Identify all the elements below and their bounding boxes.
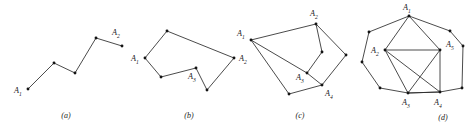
panel-caption-b: (b)	[184, 111, 194, 120]
vertex-label: A2	[370, 46, 379, 57]
edge	[75, 38, 96, 73]
edge	[462, 46, 463, 88]
vertex-point	[53, 62, 56, 65]
vertex-point	[27, 88, 30, 91]
panel-caption-a: (a)	[61, 111, 71, 120]
figure-panel-group: A1A2(a)A1A2A3(b)A1A2A3A4(c)A1A2A3A4A5(d)	[0, 0, 471, 130]
edge	[440, 88, 462, 92]
edge	[322, 55, 346, 85]
vertex-point	[95, 37, 98, 40]
vertex-point	[321, 51, 324, 54]
vertex-point	[160, 76, 163, 79]
panel-caption-d: (d)	[438, 113, 448, 122]
edge	[251, 24, 316, 40]
vertex-point	[368, 31, 371, 34]
edge	[54, 63, 75, 73]
vertex-label: A2	[309, 9, 318, 20]
vertex-point	[74, 72, 77, 75]
vertex-label: A1	[236, 29, 245, 40]
vertex-point	[345, 54, 348, 57]
vertex-label: A5	[445, 40, 454, 51]
edge	[307, 52, 322, 73]
vertex-point	[144, 57, 147, 60]
vertex-point	[384, 49, 387, 52]
vertex-label: A3	[187, 72, 196, 83]
vertex-point	[379, 87, 382, 90]
figure-canvas: A1A2(a)A1A2A3(b)A1A2A3A4(c)A1A2A3A4A5(d)	[0, 0, 471, 130]
vertex-point	[206, 89, 209, 92]
vertex-point	[408, 15, 411, 18]
edge	[385, 50, 440, 92]
edge	[251, 40, 307, 73]
edge	[409, 16, 440, 50]
vertex-point	[462, 45, 465, 48]
vertex-point	[195, 67, 198, 70]
panel-c: A1A2A3A4(c)	[236, 9, 347, 120]
edge	[409, 16, 450, 31]
edge	[207, 58, 234, 90]
panel-c-edges	[251, 24, 346, 94]
edge	[289, 85, 322, 94]
edge	[28, 63, 54, 89]
edge	[362, 62, 380, 88]
vertex-point	[315, 23, 318, 26]
edge	[362, 32, 369, 62]
vertex-point	[461, 87, 464, 90]
edge	[316, 24, 346, 55]
panel-a-labels: A1A2	[13, 28, 120, 97]
panel-b-edges	[145, 31, 234, 90]
edge	[307, 73, 322, 85]
vertex-point	[166, 30, 169, 33]
panels-root: A1A2(a)A1A2A3(b)A1A2A3A4(c)A1A2A3A4A5(d)	[13, 3, 464, 122]
vertex-point	[439, 49, 442, 52]
edge	[167, 31, 234, 58]
edge	[385, 50, 408, 93]
vertex-label: A1	[13, 86, 22, 97]
vertex-label: A4	[433, 98, 442, 109]
edge	[408, 92, 440, 93]
vertex-point	[306, 72, 309, 75]
panel-a-vertices	[27, 37, 124, 91]
vertex-point	[121, 45, 124, 48]
edge	[380, 88, 408, 93]
vertex-point	[288, 93, 291, 96]
vertex-point	[233, 57, 236, 60]
panel-c-labels: A1A2A3A4	[236, 9, 333, 100]
edge	[145, 31, 167, 58]
edge	[316, 24, 322, 52]
vertex-point	[361, 61, 364, 64]
vertex-label: A4	[324, 89, 333, 100]
edge	[196, 68, 207, 90]
vertex-point	[321, 84, 324, 87]
edge	[450, 31, 463, 46]
vertex-label: A3	[295, 73, 304, 84]
vertex-point	[407, 92, 410, 95]
edge	[145, 58, 161, 77]
panel-a: A1A2(a)	[13, 28, 123, 120]
vertex-label: A3	[401, 98, 410, 109]
panel-b: A1A2A3(b)	[130, 30, 247, 120]
vertex-label: A2	[111, 28, 120, 39]
vertex-point	[250, 39, 253, 42]
panel-b-vertices	[144, 30, 236, 92]
vertex-label: A2	[238, 54, 247, 65]
vertex-label: A1	[130, 54, 139, 65]
edge	[251, 40, 289, 94]
vertex-label: A1	[402, 3, 411, 14]
panel-d: A1A2A3A4A5(d)	[361, 3, 465, 122]
vertex-point	[449, 30, 452, 33]
panel-caption-c: (c)	[296, 111, 305, 120]
panel-a-edges	[28, 38, 122, 89]
panel-b-labels: A1A2A3	[130, 54, 247, 83]
vertex-point	[439, 91, 442, 94]
